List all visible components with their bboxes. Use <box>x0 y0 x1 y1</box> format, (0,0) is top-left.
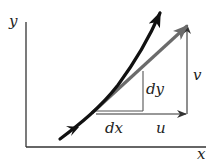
x-axis-label: x <box>197 145 206 161</box>
differential-triangle: dy dx <box>96 71 165 137</box>
dy-label: dy <box>146 80 165 98</box>
streamline-velocity-diagram: y x dy dx u v <box>0 0 217 161</box>
dx-label: dx <box>105 119 124 137</box>
u-label: u <box>156 119 166 137</box>
y-axis-label: y <box>8 12 18 30</box>
v-label: v <box>193 66 202 84</box>
